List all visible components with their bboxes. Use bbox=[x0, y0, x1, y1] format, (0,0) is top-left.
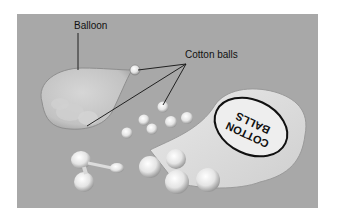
twisted-cotton-balls bbox=[71, 151, 124, 192]
loose-cotton-balls bbox=[122, 102, 194, 139]
cotton-leader-line-knot bbox=[138, 64, 186, 70]
cotton-balls-label: Cotton balls bbox=[185, 50, 238, 60]
illustration-art: COTTON BALLS bbox=[0, 0, 337, 221]
cotton-leader-line-loose bbox=[163, 64, 186, 105]
balloon bbox=[41, 65, 140, 129]
balloon-label: Balloon bbox=[74, 21, 107, 31]
